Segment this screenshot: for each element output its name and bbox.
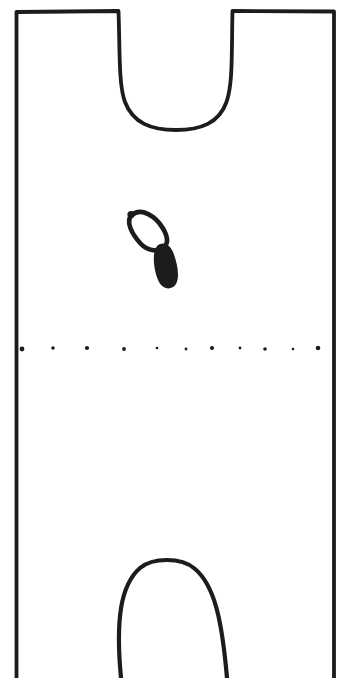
- midline-dot: [156, 347, 159, 350]
- midline-dot: [51, 346, 55, 350]
- paper-background: [0, 0, 350, 678]
- midline-dot: [20, 347, 25, 352]
- sprout-tip-knob: [127, 211, 134, 218]
- midline-dot: [85, 346, 89, 350]
- midline-dot: [185, 348, 188, 351]
- midline-dot: [239, 347, 242, 350]
- midline-dot: [122, 347, 126, 351]
- drawing-page: [0, 0, 350, 678]
- midline-dot: [263, 347, 267, 351]
- midline-dot: [210, 346, 214, 350]
- line-drawing-canvas: [0, 0, 350, 678]
- midline-dot: [316, 346, 321, 351]
- midline-dot: [292, 348, 295, 351]
